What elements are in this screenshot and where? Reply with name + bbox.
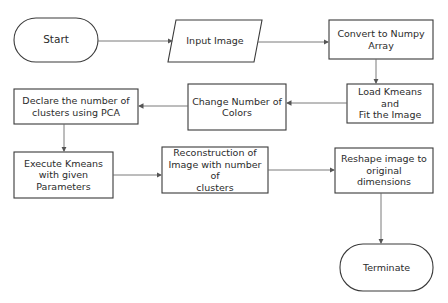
convert-label: Convert to Numpy Array: [337, 28, 424, 51]
reconstruction-label: Reconstruction of Image with number of c…: [166, 147, 264, 193]
load-kmeans-label: Load Kmeans and Fit the Image: [358, 86, 422, 121]
input-image-node: Input Image: [168, 20, 262, 62]
execute-kmeans-label: Execute Kmeans with given Parameters: [24, 158, 103, 193]
reconstruction-node: Reconstruction of Image with number of c…: [162, 147, 268, 193]
declare-clusters-label: Declare the number of clusters using PCA: [22, 95, 129, 118]
input-image-label: Input Image: [186, 35, 243, 47]
declare-clusters-node: Declare the number of clusters using PCA: [14, 89, 138, 124]
reshape-label: Reshape image to original dimensions: [339, 153, 429, 188]
start-label: Start: [43, 34, 69, 46]
execute-kmeans-node: Execute Kmeans with given Parameters: [14, 152, 113, 198]
reshape-node: Reshape image to original dimensions: [335, 148, 433, 193]
change-colors-node: Change Number of Colors: [188, 84, 286, 130]
terminate-node: Terminate: [340, 244, 433, 291]
convert-node: Convert to Numpy Array: [329, 20, 433, 59]
change-colors-label: Change Number of Colors: [192, 96, 282, 119]
load-kmeans-node: Load Kmeans and Fit the Image: [347, 84, 433, 123]
terminate-label: Terminate: [363, 262, 410, 274]
start-node: Start: [14, 18, 98, 62]
